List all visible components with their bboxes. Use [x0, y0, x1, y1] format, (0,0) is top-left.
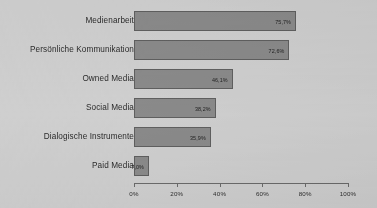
- bar-value-label: 7,0%: [131, 157, 144, 177]
- bar: 72,6%: [134, 40, 289, 60]
- bar-value-label: 35,9%: [190, 128, 206, 148]
- bar-value-label: 38,2%: [195, 99, 211, 119]
- bar-value-label: 75,7%: [275, 12, 291, 32]
- bar: 75,7%: [134, 11, 296, 31]
- bar-value-label: 72,6%: [269, 41, 285, 61]
- chart-row: Medienarbeit 75,7%: [0, 8, 377, 34]
- category-label: Owned Media: [82, 66, 134, 92]
- chart-row: Paid Media 7,0%: [0, 153, 377, 179]
- category-label: Social Media: [86, 95, 134, 121]
- x-axis-tick: [134, 183, 135, 187]
- chart-row: Owned Media 46,1%: [0, 66, 377, 92]
- bar-chart: Medienarbeit 75,7% Persönliche Kommunika…: [0, 0, 377, 208]
- chart-row: Persönliche Kommunikation 72,6%: [0, 37, 377, 63]
- x-axis-tick-label: 80%: [299, 190, 312, 197]
- x-axis-tick: [305, 183, 306, 187]
- bar: 7,0%: [134, 156, 149, 176]
- category-label: Persönliche Kommunikation: [30, 37, 134, 63]
- x-axis-tick-label: 100%: [340, 190, 357, 197]
- bar: 46,1%: [134, 69, 233, 89]
- chart-row: Dialogische Instrumente 35,9%: [0, 124, 377, 150]
- x-axis-tick-label: 20%: [170, 190, 183, 197]
- bar: 38,2%: [134, 98, 216, 118]
- category-label: Paid Media: [92, 153, 134, 179]
- bar-value-label: 46,1%: [212, 70, 228, 90]
- x-axis-tick: [348, 183, 349, 187]
- chart-row: Social Media 38,2%: [0, 95, 377, 121]
- category-label: Dialogische Instrumente: [44, 124, 134, 150]
- category-label: Medienarbeit: [85, 8, 134, 34]
- bar: 35,9%: [134, 127, 211, 147]
- x-axis-tick-label: 0%: [129, 190, 138, 197]
- x-axis-tick: [177, 183, 178, 187]
- x-axis-tick: [262, 183, 263, 187]
- x-axis-tick: [220, 183, 221, 187]
- x-axis-tick-label: 40%: [213, 190, 226, 197]
- x-axis-line: [134, 183, 348, 184]
- x-axis-tick-label: 60%: [256, 190, 269, 197]
